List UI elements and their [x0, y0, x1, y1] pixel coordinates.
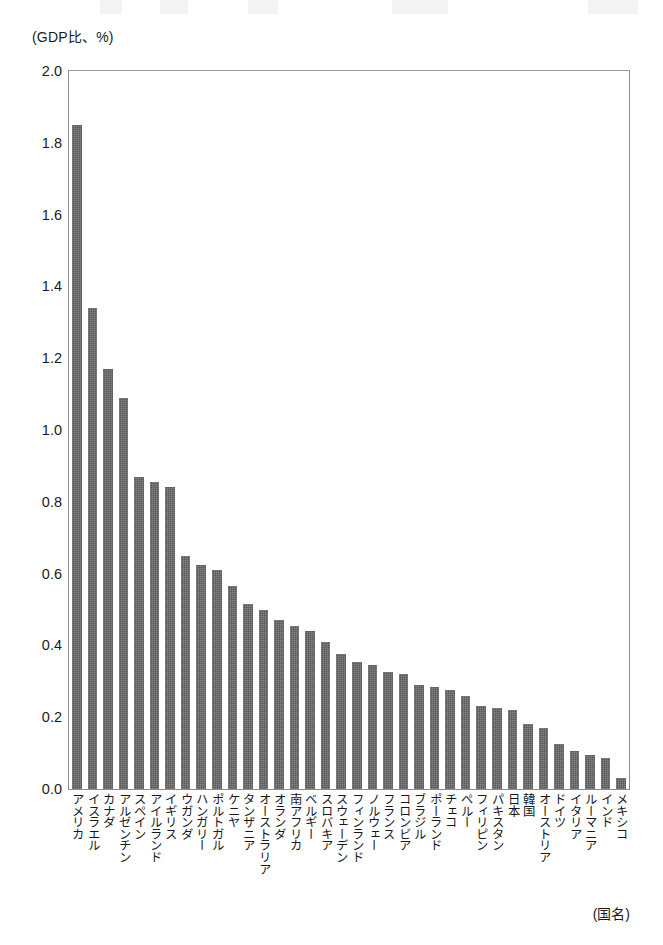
bar	[119, 398, 129, 789]
x-axis-category-label: アイルランド	[148, 793, 160, 863]
y-axis-tick: 0.0	[0, 781, 62, 797]
bar	[352, 662, 362, 789]
bar	[445, 690, 455, 789]
x-axis-category-label: パキスタン	[491, 793, 503, 851]
x-axis-category-label: スロバキア	[319, 793, 331, 851]
bar	[259, 610, 269, 790]
bar	[336, 654, 346, 789]
y-axis-tick: 0.6	[0, 566, 62, 582]
x-axis-category-label: ポルトガル	[211, 793, 223, 851]
bar	[399, 674, 409, 789]
y-axis-tick: 0.4	[0, 637, 62, 653]
x-axis-category-label: ブラジル	[413, 793, 425, 839]
x-axis-category-label: スペイン	[133, 793, 145, 839]
x-axis-category-label: ハンガリー	[195, 793, 207, 851]
bar	[243, 604, 253, 789]
y-axis-tick: 1.8	[0, 135, 62, 151]
y-axis-tick: 1.0	[0, 422, 62, 438]
y-axis-tick-labels: 2.01.81.61.41.21.00.80.60.40.20.0	[0, 70, 62, 790]
x-axis-category-label: ペルー	[459, 793, 471, 828]
x-axis-category-label: ルーマニア	[584, 793, 596, 851]
x-axis-category-label: オランダ	[273, 793, 285, 839]
bar	[616, 778, 626, 789]
bar	[212, 570, 222, 789]
bar	[181, 556, 191, 789]
bar	[476, 706, 486, 789]
x-axis-category-label: カナダ	[102, 793, 114, 828]
x-axis-category-label: 日本	[506, 793, 518, 816]
y-axis-unit-label: (GDP比、%)	[32, 26, 114, 46]
bar	[383, 672, 393, 789]
y-axis-tick: 1.2	[0, 350, 62, 366]
bar	[539, 728, 549, 789]
bar	[290, 626, 300, 789]
x-axis-category-label: フランス	[382, 793, 394, 839]
bar	[601, 758, 611, 789]
x-axis-category-label: コロンビア	[397, 793, 409, 851]
bar	[508, 710, 518, 789]
x-axis-category-label: アメリカ	[71, 793, 83, 839]
bar	[196, 565, 206, 789]
scan-artifact-strip	[0, 0, 663, 14]
y-axis-tick: 1.4	[0, 278, 62, 294]
bar	[570, 751, 580, 789]
y-axis-tick: 1.6	[0, 207, 62, 223]
x-axis-category-label: オーストリア	[537, 793, 549, 863]
x-axis-category-label: ポーランド	[428, 793, 440, 851]
x-axis-category-labels: アメリカイスラエルカナダアルゼンチンスペインアイルランドイギリスウガンダハンガリ…	[69, 793, 629, 905]
bar	[134, 477, 144, 789]
x-axis-category-label: ベルギー	[304, 793, 316, 839]
x-axis-category-label: フィリピン	[475, 793, 487, 851]
x-axis-category-label: ドイツ	[553, 793, 565, 828]
x-axis-category-label: メキシコ	[615, 793, 627, 839]
bar-series	[69, 71, 629, 789]
x-axis-category-label: チェコ	[444, 793, 456, 828]
bar	[321, 642, 331, 789]
y-axis-tick: 0.8	[0, 494, 62, 510]
bar	[414, 685, 424, 789]
bar	[274, 620, 284, 789]
bar	[165, 487, 175, 789]
x-axis-category-label: ウガンダ	[179, 793, 191, 839]
bar	[554, 744, 564, 789]
x-axis-unit-label: (国名)	[593, 903, 630, 923]
bar	[305, 631, 315, 789]
x-axis-category-label: イギリス	[164, 793, 176, 839]
x-axis-category-label: 南アフリカ	[288, 793, 300, 851]
bar	[430, 687, 440, 789]
bar	[88, 308, 98, 789]
bar	[228, 586, 238, 789]
x-axis-category-label: ノルウェー	[366, 793, 378, 851]
bar	[523, 724, 533, 789]
x-axis-category-label: イスラエル	[86, 793, 98, 851]
x-axis-category-label: スウェーデン	[335, 793, 347, 863]
x-axis-category-label: ケニヤ	[226, 793, 238, 828]
x-axis-category-label: アルゼンチン	[117, 793, 129, 863]
x-axis-category-label: 韓国	[522, 793, 534, 816]
x-axis-category-label: フィンランド	[351, 793, 363, 863]
bar	[103, 369, 113, 789]
x-axis-category-label: イタリア	[568, 793, 580, 839]
x-axis-category-label: オーストラリア	[257, 793, 269, 874]
bar	[368, 665, 378, 789]
bar	[492, 708, 502, 789]
y-axis-tick: 2.0	[0, 63, 62, 79]
bar	[72, 125, 82, 789]
y-axis-tick: 0.2	[0, 709, 62, 725]
bar	[150, 482, 160, 789]
bar	[461, 696, 471, 789]
bar	[585, 755, 595, 789]
x-axis-category-label: インド	[599, 793, 611, 828]
x-axis-category-label: タンザニア	[242, 793, 254, 851]
